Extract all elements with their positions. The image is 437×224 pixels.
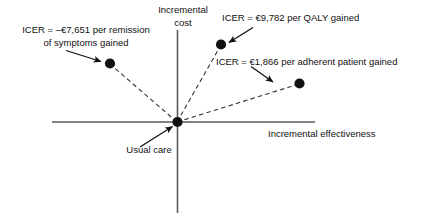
data-point-origin-usual-care bbox=[172, 117, 182, 127]
annotation-label-remission-line1: ICER = –€7,651 per remission bbox=[22, 24, 150, 35]
cost-effectiveness-plane-figure: Incrementalcost Incremental effectivenes… bbox=[0, 0, 437, 224]
annotation-label-remission: ICER = –€7,651 per remissionof symptoms … bbox=[4, 24, 168, 49]
data-point-qaly bbox=[216, 39, 226, 49]
icer-ray-remission bbox=[110, 64, 177, 122]
annotation-label-qaly: ICER = €9,782 per QALY gained bbox=[222, 12, 432, 25]
y-axis-label-line1: Incremental bbox=[158, 4, 208, 15]
icer-ray-adherent bbox=[177, 84, 299, 122]
annotation-label-remission-line2: of symptoms gained bbox=[43, 37, 128, 48]
data-point-remission bbox=[105, 58, 115, 68]
annotation-arrow-qaly bbox=[229, 28, 253, 43]
data-point-adherent bbox=[294, 78, 304, 88]
annotation-label-usual-care: Usual care bbox=[106, 144, 192, 157]
x-axis-label: Incremental effectiveness bbox=[268, 128, 436, 141]
y-axis-label-line2: cost bbox=[174, 17, 191, 28]
annotation-arrow-adherent bbox=[251, 67, 273, 83]
annotation-label-adherent: ICER = €1,866 per adherent patient gaine… bbox=[216, 56, 436, 69]
annotation-arrow-remission bbox=[66, 51, 101, 62]
